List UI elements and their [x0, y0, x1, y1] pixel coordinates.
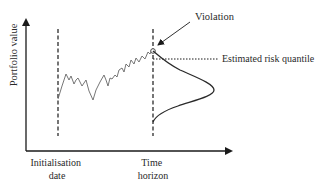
violation-arrow [158, 22, 190, 45]
risk-quantile-label: Estimated risk quantile [222, 53, 315, 64]
time-horizon-label: Time horizon [138, 157, 169, 181]
risk-diagram: Portfolio value Violation Estimated risk… [0, 0, 323, 186]
y-axis-label: Portfolio value [8, 23, 19, 86]
portfolio-path [58, 50, 152, 100]
initialisation-date-label: Initialisation date [30, 157, 83, 181]
violation-label: Violation [195, 11, 235, 22]
forecast-distribution-curve [153, 51, 214, 122]
